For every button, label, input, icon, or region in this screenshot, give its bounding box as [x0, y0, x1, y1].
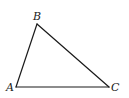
triangle-diagram: A B C	[0, 0, 129, 98]
edge-bc	[37, 24, 109, 87]
vertex-label-c: C	[111, 81, 120, 94]
edge-ab	[16, 24, 37, 87]
vertex-label-b: B	[32, 10, 41, 23]
vertex-label-a: A	[5, 81, 14, 94]
